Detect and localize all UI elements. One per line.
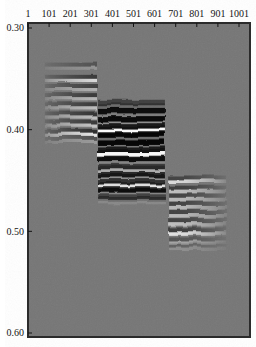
x-tick-label: 201 [63,8,78,19]
x-tick-label: 401 [105,8,120,19]
x-tick-label: 901 [210,8,225,19]
figure-container: 110120130140150160170180190110010.300.40… [0,0,256,347]
x-tick-label: 601 [147,8,162,19]
y-tick-label: 0.60 [7,327,25,338]
seismic-plot-svg: 110120130140150160170180190110010.300.40… [0,0,256,347]
x-tick-label: 501 [126,8,141,19]
x-tick-label: 801 [189,8,204,19]
x-tick-label: 1 [26,8,31,19]
x-tick-label: 301 [84,8,99,19]
y-tick-label: 0.30 [7,22,25,33]
center-reflector-band [98,100,165,205]
right-reflector-band [168,175,226,250]
x-tick-label: 1001 [229,8,249,19]
x-tick-label: 701 [168,8,183,19]
y-tick-label: 0.50 [7,226,25,237]
x-tick-label: 101 [42,8,57,19]
y-tick-label: 0.40 [7,124,25,135]
